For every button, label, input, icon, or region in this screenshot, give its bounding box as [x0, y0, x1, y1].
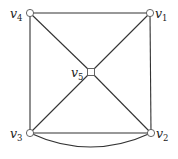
label-v3: v3: [10, 126, 22, 143]
vertex-v5: [88, 69, 95, 76]
label-v1: v1: [155, 6, 167, 23]
label-subscript-v5: 5: [78, 72, 83, 82]
edge-v3-v2: [30, 133, 151, 147]
vertex-v3: [26, 129, 33, 136]
label-subscript-v3: 3: [17, 133, 22, 143]
vertex-v1: [146, 9, 153, 16]
vertex-v4: [26, 9, 33, 16]
label-v4: v4: [10, 6, 22, 23]
edge-v5-v2: [91, 72, 151, 133]
label-v2: v2: [156, 126, 168, 143]
label-v5: v5: [71, 65, 83, 82]
edge-v1-v5: [91, 13, 150, 72]
graph-diagram: v1v2v3v4v5: [0, 0, 178, 159]
label-subscript-v1: 1: [162, 13, 167, 23]
edge-v4-v5: [30, 13, 91, 72]
label-subscript-v4: 4: [17, 13, 22, 23]
edge-v1-v2: [150, 13, 151, 133]
edges-layer: [30, 13, 151, 147]
label-subscript-v2: 2: [163, 133, 168, 143]
vertex-v2: [147, 129, 154, 136]
